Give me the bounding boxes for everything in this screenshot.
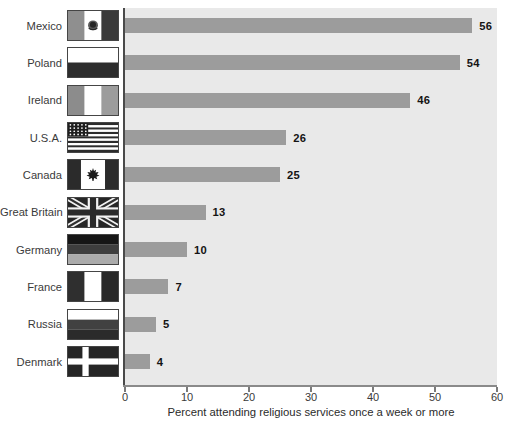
russia-flag-icon: [67, 309, 119, 340]
bar-value-label: 26: [293, 132, 306, 144]
country-label: Mexico: [0, 20, 62, 32]
france-flag-icon: [67, 271, 119, 302]
country-label: France: [0, 281, 62, 293]
country-label: Ireland: [0, 94, 62, 106]
x-axis-title: Percent attending religious services onc…: [168, 406, 455, 418]
x-axis-tick-label: 10: [181, 391, 193, 403]
bar-value-label: 13: [213, 206, 226, 218]
bar-value-label: 46: [417, 94, 430, 106]
country-label: Poland: [0, 57, 62, 69]
bar: [125, 130, 286, 145]
bar-value-label: 7: [175, 281, 182, 293]
bar: [125, 205, 206, 220]
bar-value-label: 56: [479, 20, 492, 32]
x-axis-tick-label: 60: [491, 391, 503, 403]
x-axis-tick-label: 30: [305, 391, 317, 403]
x-axis-tick-label: 0: [122, 391, 128, 403]
bar-value-label: 25: [287, 169, 300, 181]
bar: [125, 93, 410, 108]
bar: [125, 317, 156, 332]
bar-value-label: 10: [194, 244, 207, 256]
country-label: Germany: [0, 244, 62, 256]
poland-flag-icon: [67, 47, 119, 78]
mexico-flag-icon: [67, 10, 119, 41]
country-label: U.S.A.: [0, 132, 62, 144]
denmark-flag-icon: [67, 346, 119, 377]
bar-chart: Mexico56Poland54Ireland46U.S.A.26Canada2…: [0, 0, 505, 429]
bar: [125, 354, 150, 369]
canada-flag-icon: [67, 159, 119, 190]
bar: [125, 279, 168, 294]
germany-flag-icon: [67, 234, 119, 265]
bar-value-label: 54: [467, 57, 480, 69]
x-axis-tick-label: 20: [243, 391, 255, 403]
ireland-flag-icon: [67, 85, 119, 116]
usa-flag-icon: [67, 122, 119, 153]
great-britain-flag-icon: [67, 197, 119, 228]
country-label: Denmark: [0, 356, 62, 368]
bar-value-label: 5: [163, 318, 170, 330]
bar: [125, 167, 280, 182]
x-axis-tick-label: 40: [367, 391, 379, 403]
country-label: Russia: [0, 318, 62, 330]
country-label: Great Britain: [0, 206, 62, 218]
bar: [125, 18, 472, 33]
bar: [125, 242, 187, 257]
bar-value-label: 4: [157, 356, 164, 368]
x-axis-tick-label: 50: [429, 391, 441, 403]
bar: [125, 55, 460, 70]
country-label: Canada: [0, 169, 62, 181]
